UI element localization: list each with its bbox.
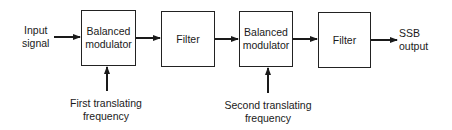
input-label-line1: Input — [22, 24, 49, 37]
carrier1-label-line2: frequency — [70, 110, 142, 123]
carrier2-label-line1: Second translating — [225, 99, 312, 112]
modulator1-label-line1: Balanced — [85, 25, 132, 38]
carrier2-label-line2: frequency — [225, 112, 312, 125]
ssb-output-label: SSB output — [399, 27, 428, 53]
output-label-line1: SSB — [399, 27, 428, 40]
input-label-line2: signal — [22, 37, 49, 50]
filter1-label: Filter — [176, 33, 199, 46]
carrier1-label-line1: First translating — [70, 97, 142, 110]
filter-1: Filter — [161, 11, 215, 67]
balanced-modulator-1: Balanced modulator — [81, 10, 136, 66]
filter2-label: Filter — [333, 34, 356, 47]
modulator1-label-line2: modulator — [85, 38, 132, 51]
modulator2-label-line1: Balanced — [243, 26, 290, 39]
second-translating-frequency-label: Second translating frequency — [225, 99, 312, 125]
balanced-modulator-2: Balanced modulator — [239, 11, 293, 67]
filter-2: Filter — [318, 12, 371, 68]
input-signal-label: Input signal — [22, 24, 49, 50]
modulator2-label-line2: modulator — [243, 39, 290, 52]
output-label-line2: output — [399, 40, 428, 53]
first-translating-frequency-label: First translating frequency — [70, 97, 142, 123]
